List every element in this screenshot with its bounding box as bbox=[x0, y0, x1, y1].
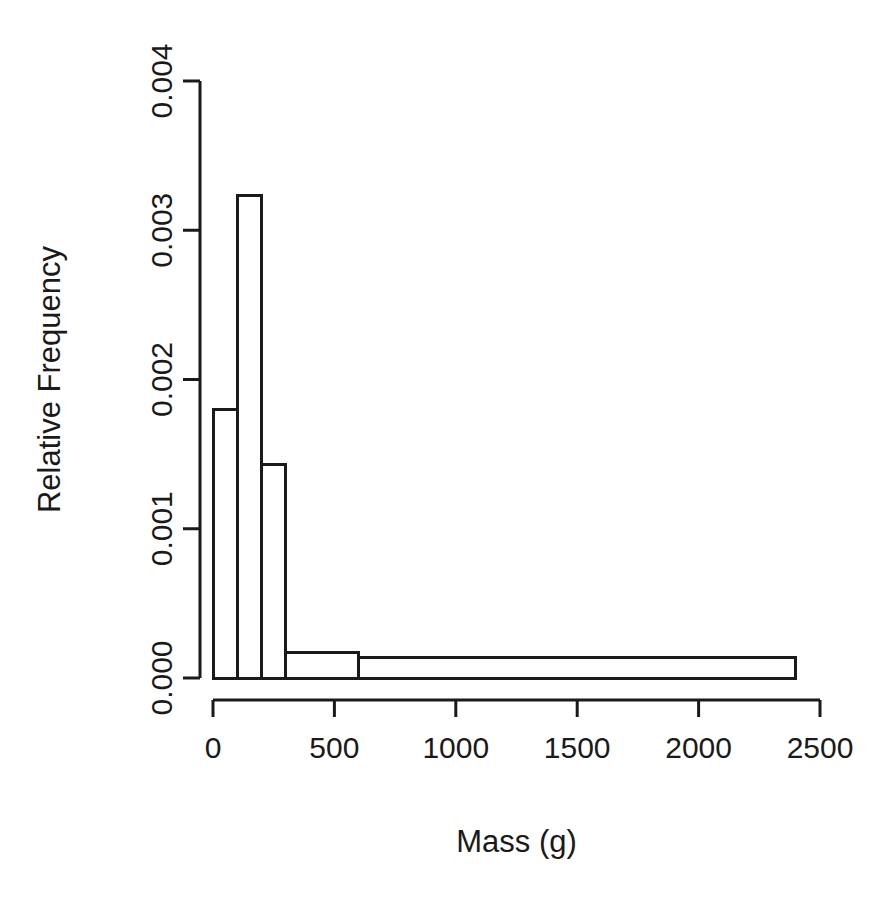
x-tick-label: 1000 bbox=[422, 731, 489, 764]
histogram-bar bbox=[213, 409, 237, 678]
x-tick-label: 500 bbox=[309, 731, 359, 764]
y-tick-label: 0.004 bbox=[145, 43, 178, 118]
y-axis bbox=[183, 81, 200, 678]
y-axis-title: Relative Frequency bbox=[32, 245, 67, 513]
x-tick-label: 2000 bbox=[665, 731, 732, 764]
x-tick-label: 0 bbox=[205, 731, 222, 764]
x-tick-labels: 05001000150020002500 bbox=[205, 731, 854, 764]
x-axis-title: Mass (g) bbox=[456, 824, 577, 859]
x-tick-label: 2500 bbox=[787, 731, 854, 764]
x-axis bbox=[213, 700, 820, 717]
y-tick-labels: 0.0000.0010.0020.0030.004 bbox=[145, 43, 178, 715]
y-tick-label: 0.000 bbox=[145, 640, 178, 715]
histogram-bar bbox=[359, 657, 796, 678]
histogram-bar bbox=[262, 465, 286, 678]
histogram-plot: 0.0000.0010.0020.0030.004 05001000150020… bbox=[0, 0, 891, 902]
y-tick-label: 0.002 bbox=[145, 342, 178, 417]
bars-group bbox=[213, 196, 796, 678]
x-tick-label: 1500 bbox=[544, 731, 611, 764]
y-tick-label: 0.003 bbox=[145, 193, 178, 268]
histogram-figure: 0.0000.0010.0020.0030.004 05001000150020… bbox=[0, 0, 891, 902]
histogram-bar bbox=[286, 653, 359, 678]
y-tick-label: 0.001 bbox=[145, 491, 178, 566]
histogram-bar bbox=[237, 196, 261, 678]
